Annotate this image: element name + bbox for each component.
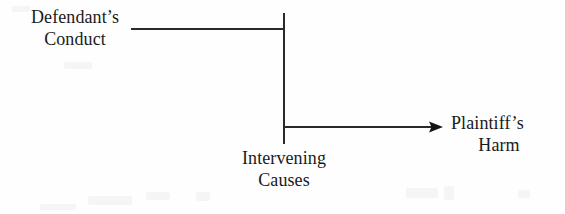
- node-label-line: Intervening: [214, 147, 354, 169]
- node-label-line: Causes: [214, 169, 354, 191]
- node-label-plaintiff-harm: Plaintiff’s Harm: [451, 112, 563, 156]
- node-label-line: Defendant’s: [13, 6, 137, 28]
- node-label-line: Conduct: [13, 28, 137, 50]
- diagram-canvas: Defendant’s Conduct Intervening Causes P…: [0, 0, 565, 214]
- node-label-line: Plaintiff’s: [451, 112, 563, 134]
- node-label-defendant-conduct: Defendant’s Conduct: [13, 6, 137, 50]
- node-label-line: Harm: [451, 134, 563, 156]
- node-label-intervening-causes: Intervening Causes: [214, 147, 354, 191]
